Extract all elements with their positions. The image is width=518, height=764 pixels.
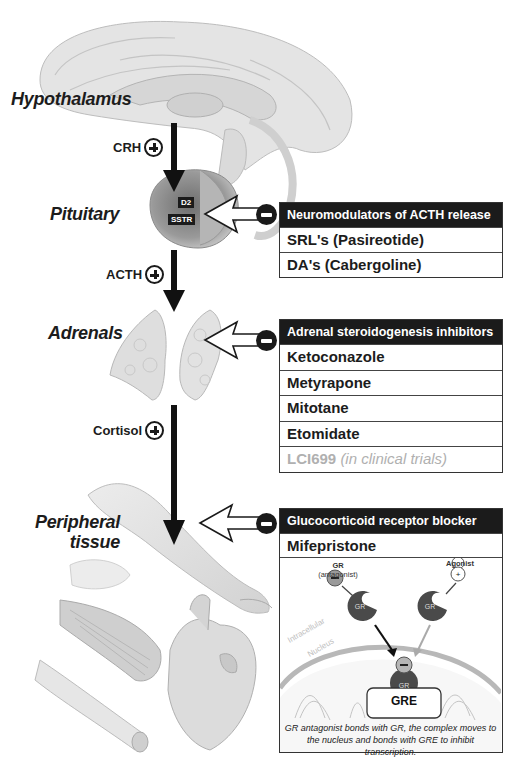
cortisol-text: Cortisol: [93, 423, 142, 438]
neuromodulators-header: Neuromodulators of ACTH release: [280, 203, 502, 227]
caption-line2: the nucleus and bonds with GRE to inhibi…: [280, 734, 501, 758]
caption-line1: GR antagonist bonds with GR, the complex…: [280, 722, 501, 734]
antagonist-label-line1: GR: [316, 561, 360, 570]
acth-text: ACTH: [106, 267, 142, 282]
d2-receptor-tag: D2: [178, 197, 194, 208]
peripheral-tissue-label: Peripheral tissue: [32, 512, 120, 552]
adipose-tissue-illustration: [70, 560, 130, 589]
gr-label-left: GR: [350, 602, 370, 611]
drug-item: Etomidate: [280, 421, 502, 447]
plus-icon: [144, 138, 163, 157]
peripheral-label-line1: Peripheral: [32, 512, 120, 532]
drug-item: Metyrapone: [280, 370, 502, 396]
gr-blocker-box: Glucocorticoid receptor blocker Mifepris…: [279, 508, 503, 753]
antagonist-label: GR (antagonist): [316, 561, 360, 579]
crh-text: CRH: [113, 140, 141, 155]
trial-note: (in clinical trials): [340, 450, 447, 467]
adrenal-inhibitors-header: Adrenal steroidogenesis inhibitors: [280, 320, 502, 344]
neuromodulators-box: Neuromodulators of ACTH release SRL's (P…: [279, 202, 503, 278]
plus-icon: [145, 265, 164, 284]
heart-illustration: [168, 595, 256, 750]
gr-label-right: GR: [420, 602, 440, 611]
minus-icon: [256, 204, 277, 225]
minus-icon: [256, 513, 277, 534]
drug-item: Mifepristone: [280, 533, 502, 558]
gr-label-bound: GR: [394, 681, 414, 690]
trial-drug-name: LCI699: [287, 450, 336, 467]
minus-icon: [256, 330, 277, 351]
cortisol-label: Cortisol: [93, 421, 164, 440]
muscle-illustration: [60, 600, 161, 681]
antagonist-label-line2: (antagonist): [316, 570, 360, 579]
gre-label: GRE: [367, 694, 441, 708]
drug-item: SRL's (Pasireotide): [280, 227, 502, 252]
adrenal-inhibitors-box: Adrenal steroidogenesis inhibitors Ketoc…: [279, 319, 503, 473]
plus-icon: [145, 421, 164, 440]
crh-label: CRH: [113, 138, 163, 157]
svg-text:+: +: [456, 570, 461, 579]
adrenal-glands-illustration: [110, 310, 221, 400]
hypothalamus-label: Hypothalamus: [11, 89, 131, 110]
gr-blocker-header: Glucocorticoid receptor blocker: [280, 509, 502, 533]
drug-item: DA's (Cabergoline): [280, 252, 502, 277]
peripheral-label-line2: tissue: [32, 532, 120, 552]
drug-item: Mitotane: [280, 395, 502, 421]
mechanism-caption: GR antagonist bonds with GR, the complex…: [280, 722, 501, 758]
adrenals-label: Adrenals: [48, 323, 123, 344]
pituitary-label: Pituitary: [50, 204, 119, 225]
drug-item: Ketoconazole: [280, 344, 502, 370]
agonist-label: Agonist: [440, 559, 480, 568]
drug-item-trial: LCI699 (in clinical trials): [280, 446, 502, 472]
acth-label: ACTH: [106, 265, 164, 284]
sstr-receptor-tag: SSTR: [168, 214, 195, 225]
